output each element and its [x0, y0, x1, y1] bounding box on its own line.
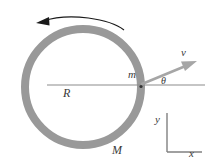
ring-mass-label: M	[112, 144, 122, 156]
bead-point	[139, 85, 142, 88]
velocity-label: v	[181, 47, 186, 58]
figure-canvas	[0, 0, 209, 167]
radius-label: R	[63, 87, 70, 99]
bead-mass-label: m	[128, 69, 136, 80]
physics-figure: m v θ R M y x	[0, 0, 209, 167]
x-axis-label: x	[189, 148, 194, 159]
y-axis-label: y	[155, 114, 160, 125]
coordinate-axes	[167, 113, 202, 152]
velocity-arrow	[142, 61, 197, 84]
ring-hoop	[25, 29, 141, 145]
angle-theta-label: θ	[161, 76, 166, 86]
